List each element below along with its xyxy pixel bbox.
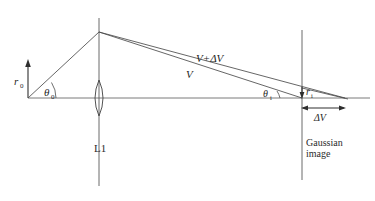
upper-ray-label: V+ΔV bbox=[196, 52, 225, 64]
optical-ray-diagram: r 0 θ 0 L1 V+ΔV V θ i r i ΔV Gaussian im… bbox=[0, 0, 375, 201]
image-angle-label: θ i bbox=[263, 88, 272, 101]
gaussian-image-line2: image bbox=[306, 148, 331, 159]
gaussian-image-label: Gaussian image bbox=[306, 137, 343, 159]
incoming-ray bbox=[28, 32, 99, 98]
up-arrow-icon bbox=[25, 59, 31, 98]
image-height-subscript: i bbox=[311, 92, 313, 99]
object-angle-label: θ 0 bbox=[44, 86, 55, 101]
gaussian-image-line1: Gaussian bbox=[306, 137, 343, 148]
arrowhead bbox=[25, 59, 31, 67]
image-angle-symbol: θ bbox=[263, 88, 268, 99]
object-height-subscript: 0 bbox=[20, 82, 24, 90]
defocus-label: ΔV bbox=[313, 112, 328, 123]
image-height-label: r i bbox=[306, 86, 313, 99]
image-angle-subscript: i bbox=[270, 94, 272, 101]
object-angle-subscript: 0 bbox=[51, 93, 55, 101]
diagram-canvas: r 0 θ 0 L1 V+ΔV V θ i r i ΔV Gaussian im… bbox=[0, 0, 375, 201]
lens-label: L1 bbox=[94, 142, 106, 154]
thetai-angle-arc bbox=[277, 91, 280, 98]
object-angle-symbol: θ bbox=[44, 86, 50, 98]
object-height-label: r 0 bbox=[14, 75, 24, 90]
lower-ray-label: V bbox=[186, 68, 194, 80]
ray-V bbox=[99, 32, 302, 98]
double-headed-arrow-icon bbox=[301, 106, 346, 111]
image-height-symbol: r bbox=[306, 86, 310, 97]
object-height-symbol: r bbox=[14, 75, 19, 87]
